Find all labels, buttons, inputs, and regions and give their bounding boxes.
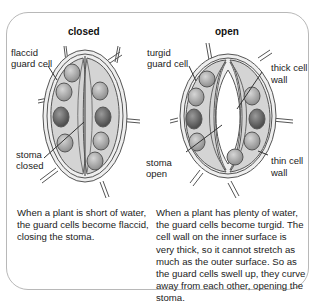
stoma-open-label-line1: stoma	[146, 157, 172, 168]
stoma-closed-label-line2: closed	[16, 160, 43, 171]
thin-wall-label-line1: thin cell	[271, 155, 303, 166]
flaccid-label-line2: guard cell	[11, 58, 52, 69]
flaccid-label-line1: flaccid	[11, 47, 38, 58]
turgid-label-line2: guard cell	[147, 58, 188, 69]
open-title: open	[215, 26, 239, 37]
turgid-label-line1: turgid	[147, 47, 171, 58]
stoma-open-label-line2: open	[146, 168, 167, 179]
thick-wall-label-line1: thick cell	[271, 62, 307, 73]
thin-wall-label-line2: wall	[271, 167, 287, 178]
closed-title: closed	[68, 26, 100, 37]
closed-caption: When a plant is short of water, the guar…	[17, 207, 153, 244]
open-caption: When a plant has plenty of water, the gu…	[156, 207, 306, 305]
thick-wall-label-line2: wall	[271, 74, 287, 85]
stoma-closed-label-line1: stoma	[16, 149, 42, 160]
closed-stoma	[38, 46, 140, 198]
